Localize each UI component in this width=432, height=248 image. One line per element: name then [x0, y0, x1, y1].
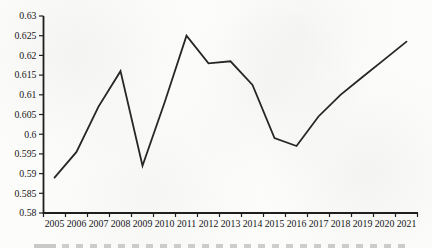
y-axis-tick-label: 0.585: [14, 188, 36, 199]
cropped-caption-remnant: [34, 244, 412, 248]
x-axis-tick-label: 2019: [353, 218, 373, 229]
x-axis-tick-label: 2017: [309, 218, 329, 229]
y-axis-tick-label: 0.615: [14, 69, 36, 80]
x-axis-tick-label: 2008: [111, 218, 131, 229]
y-axis-tick-label: 0.6: [24, 129, 36, 140]
x-axis-tick-label: 2020: [375, 218, 395, 229]
y-axis-tick-label: 0.61: [19, 89, 36, 100]
y-axis-tick-label: 0.605: [14, 109, 36, 120]
x-axis-tick-label: 2009: [133, 218, 153, 229]
x-axis-tick-label: 2006: [67, 218, 87, 229]
x-axis-tick-label: 2012: [199, 218, 219, 229]
line-chart-svg: 0.580.5850.590.5950.60.6050.610.6150.620…: [0, 0, 432, 240]
x-axis-tick-label: 2007: [89, 218, 109, 229]
x-axis-tick-label: 2018: [331, 218, 351, 229]
x-axis-tick-label: 2016: [287, 218, 307, 229]
y-axis-tick-label: 0.625: [14, 30, 36, 41]
x-axis-tick-label: 2015: [265, 218, 285, 229]
axes: [44, 16, 419, 213]
y-axis-tick-label: 0.595: [14, 148, 36, 159]
y-axis-tick-label: 0.62: [19, 50, 36, 61]
x-axis-tick-label: 2013: [221, 218, 241, 229]
x-axis-tick-label: 2011: [177, 218, 196, 229]
x-axis-tick-label: 2005: [45, 218, 65, 229]
x-axis-tick-label: 2010: [155, 218, 175, 229]
y-axis-tick-label: 0.63: [19, 10, 36, 21]
x-axis-tick-label: 2014: [243, 218, 263, 229]
y-axis-tick-label: 0.59: [19, 168, 36, 179]
y-axis-tick-label: 0.58: [19, 207, 36, 218]
x-axis-tick-label: 2021: [397, 218, 417, 229]
figure-scan: 0.580.5850.590.5950.60.6050.610.6150.620…: [0, 0, 432, 248]
data-series-line: [55, 36, 407, 178]
